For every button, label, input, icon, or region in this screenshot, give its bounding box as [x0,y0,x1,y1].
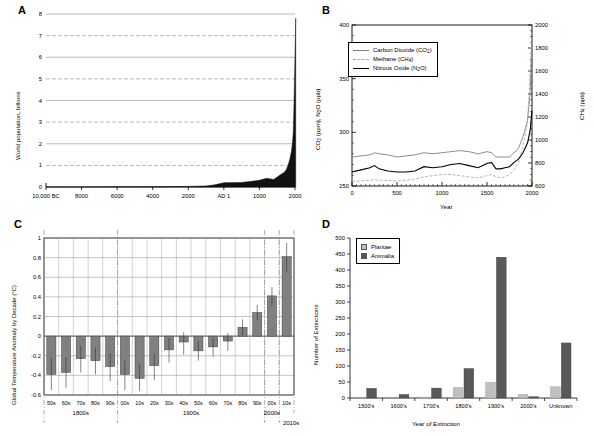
population-area [46,18,296,187]
panel-d-xtick: Unknown [549,403,572,409]
panel-a-xtick: 6000 [111,193,124,199]
panel-b-ytick-right: 1200 [535,114,548,120]
panel-d-xtick: 2000's [520,403,537,409]
panel-d-ytick: 150 [335,347,345,353]
legend-item-ch4: Methane (CH4) [353,55,432,64]
panel-b-xtick: 500 [392,190,402,196]
panel-a-xtick: 2000 [182,193,195,199]
panel-c-plot: -0.6-0.4-0.200.20.40.60.8150s60s70s80s90… [0,215,300,436]
panel-d-xtick: 1700's [423,403,440,409]
panel-d-ytick: 300 [335,299,345,305]
panel-a-letter: A [18,4,26,16]
animalia-bar [432,388,442,398]
panel-a-ytick: 5 [39,76,42,82]
plantae-bar [421,397,431,398]
panel-d-ytick: 450 [335,251,345,257]
ch4-line-icon [353,59,369,60]
panel-c-era-label: 2000s [264,410,280,416]
panel-b-xlabel: Year [440,203,453,210]
panel-c-xtick: 30s [165,400,174,406]
panel-d-ylabel: Number of Extinctions [312,304,319,365]
animalia-bar [561,343,571,398]
panel-c-ytick: 0.8 [33,255,41,261]
co2-line-icon [353,50,369,51]
panel-b-ytick-right: 800 [535,160,545,166]
panel-c-xtick: 40s [179,400,188,406]
panel-c-ytick: 0.2 [33,314,41,320]
legend-item-co2: Carbon Dioxide (CO2) [353,46,432,55]
panel-c-era-label: 1800s [73,410,89,416]
panel-c-ytick: -0.4 [31,372,42,378]
panel-b-ytick-right: 1800 [535,45,548,51]
panel-b-ytick-right: 600 [535,183,545,189]
panel-d-xtick: 1800's [455,403,472,409]
panel-b-ylabel-left: CO2 (ppm), N2O (ppb) [314,89,322,150]
panel-c-xtick: 50s [194,400,203,406]
legend-label-n2o: Nitrous Oxide (N2O) [373,65,427,72]
animalia-bar [367,388,377,398]
panel-b-xtick: 0 [350,190,353,196]
animalia-bar [399,394,409,398]
panel-c-xtick: 60s [62,400,71,406]
panel-b-ytick-right: 1600 [535,68,548,74]
legend-label-animalia: Animalia [371,253,394,259]
panel-c-xtick: 90s [106,400,115,406]
panel-b-ytick-left: 400 [339,22,349,28]
panel-d-legend: Plantae Animalia [356,238,400,264]
panel-b-letter: B [322,4,330,16]
panel-c-xtick: 20s [150,400,159,406]
panel-c-letter: C [14,218,22,230]
panel-d-letter: D [322,218,330,230]
panel-a: A World population, billions 12345678010… [0,0,300,215]
panel-a-ytick: 4 [39,98,43,104]
panel-a-ytick: 2 [39,141,42,147]
panel-d-ytick: 250 [335,315,345,321]
panel-a-ytick: 1 [39,162,42,168]
n2o-line-icon [353,68,369,69]
panel-c-era-label: 2010s [283,420,299,426]
panel-d-ytick: 100 [335,363,345,369]
panel-a-ytick: 3 [39,119,42,125]
panel-c-ytick: -0.6 [31,392,41,398]
panel-c-xtick: 00s [121,400,130,406]
panel-a-xtick: 1000 [253,193,266,199]
panel-a-ylabel: World population, billions [14,91,21,160]
panel-a-ytick: 0 [39,184,42,190]
panel-c-ylabel: Global Temperature Anomaly by Decade (°C… [11,285,17,405]
panel-c-xtick: 10s [282,400,291,406]
plantae-bar [551,387,561,398]
panel-d-plot: 0501001502002503003504004505001500's1600… [300,215,594,436]
panel-d-ytick: 350 [335,283,345,289]
panel-a-ytick: 7 [39,33,42,39]
panel-a-xtick: 4000 [146,193,159,199]
panel-c: C Global Temperature Anomaly by Decade (… [0,215,300,436]
panel-b-plot: 2503003504006008001000120014001600180020… [300,0,594,215]
panel-c-xtick: 70s [76,400,85,406]
plantae-bar [518,394,528,398]
panel-a-xtick: 8000 [75,193,88,199]
panel-c-xtick: 10s [135,400,144,406]
legend-label-plantae: Plantae [371,244,391,250]
panel-c-xtick: 70s [223,400,232,406]
panel-b-ytick-right: 2000 [535,22,548,28]
panel-d-xlabel: Year of Extinction [412,420,460,427]
panel-b: B CO2 (ppm), N2O (ppb) CH4 (ppb) Year 25… [300,0,594,215]
panel-d-ytick: 200 [335,331,345,337]
figure-root: A World population, billions 12345678010… [0,0,594,436]
panel-b-ylabel-right: CH4 (ppb) [578,92,586,120]
panel-d-xtick: 1500's [358,403,375,409]
panel-d: D Number of Extinctions Year of Extincti… [300,215,594,436]
panel-c-ytick: -0.2 [31,353,41,359]
panel-c-ytick: 0 [38,333,41,339]
plantae-bar [486,382,496,398]
animalia-bar [464,369,474,398]
panel-b-ytick-right: 1400 [535,91,548,97]
panel-b-xtick: 1500 [481,190,494,196]
panel-a-plot: 12345678010,000 BC8000600040002000AD 110… [0,0,300,215]
panel-c-xtick: 60s [209,400,218,406]
panel-a-xtick: 10,000 BC [32,193,59,199]
panel-a-xtick: AD 1 [217,193,230,199]
panel-d-xtick: 1600's [390,403,407,409]
panel-c-xtick: 80s [91,400,100,406]
legend-item-animalia: Animalia [361,251,394,260]
